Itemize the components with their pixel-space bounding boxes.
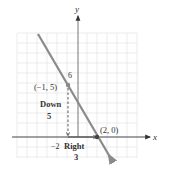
grid [17,33,137,158]
coordinate-graph: y x 6 −2 (−1, 5) (2, 0) Down 5 Right 3 [0,0,170,169]
y-axis-label: y [74,4,79,14]
x-axis-label: x [152,132,157,142]
point-a-marker [66,83,70,87]
point-a-label: (−1, 5) [34,82,57,92]
right-value: 3 [74,152,78,162]
down-label: Down [40,99,62,109]
down-value: 5 [47,111,51,121]
graph-line [38,34,110,157]
x-tick-neg2: −2 [51,142,60,151]
y-tick-6: 6 [68,71,72,80]
right-label: Right [64,141,84,151]
point-b-label: (2, 0) [100,125,119,135]
point-b-marker [95,135,99,139]
